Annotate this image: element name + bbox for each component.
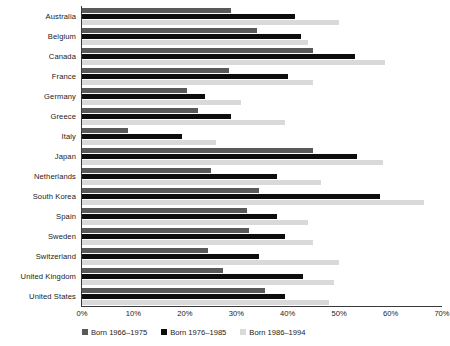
bar xyxy=(82,240,313,245)
legend-item[interactable]: Born 1976–1985 xyxy=(161,328,226,337)
bar xyxy=(82,300,329,305)
bar xyxy=(82,200,424,205)
legend-label: Born 1976–1985 xyxy=(170,328,226,337)
chart-legend: Born 1966–1975Born 1976–1985Born 1986–19… xyxy=(82,324,442,340)
category-label: Sweden xyxy=(0,226,76,246)
bar-group xyxy=(82,86,442,106)
category-label: Germany xyxy=(0,86,76,106)
bar xyxy=(82,60,385,65)
bar-group xyxy=(82,286,442,306)
x-tick-label: 70% xyxy=(434,309,449,318)
bar-group xyxy=(82,206,442,226)
category-label: Canada xyxy=(0,46,76,66)
category-axis-labels: AustraliaBelgiumCanadaFranceGermanyGreec… xyxy=(0,6,76,306)
bar xyxy=(82,234,285,239)
category-label: Belgium xyxy=(0,26,76,46)
bar xyxy=(82,208,247,213)
bar xyxy=(82,68,229,73)
bar-group xyxy=(82,166,442,186)
x-axis-tick-labels: 0%10%20%30%40%50%60%70% xyxy=(82,309,442,323)
bar-group xyxy=(82,126,442,146)
bar xyxy=(82,140,216,145)
x-axis-line xyxy=(81,306,442,307)
bar-group xyxy=(82,226,442,246)
bar xyxy=(82,94,205,99)
legend-swatch-icon xyxy=(240,329,246,335)
bar xyxy=(82,174,277,179)
bar-group xyxy=(82,46,442,66)
bar xyxy=(82,128,128,133)
bar xyxy=(82,180,321,185)
bar xyxy=(82,274,303,279)
bar xyxy=(82,54,355,59)
bar xyxy=(82,260,339,265)
bar xyxy=(82,160,383,165)
bar-groups xyxy=(82,6,442,306)
plot-area xyxy=(82,6,442,306)
bar xyxy=(82,214,277,219)
bar-group xyxy=(82,66,442,86)
bar xyxy=(82,148,313,153)
x-tick-label: 40% xyxy=(280,309,295,318)
x-tick-label: 60% xyxy=(383,309,398,318)
legend-item[interactable]: Born 1966–1975 xyxy=(82,328,147,337)
category-label: Japan xyxy=(0,146,76,166)
legend-item[interactable]: Born 1986–1994 xyxy=(240,328,305,337)
category-label: Spain xyxy=(0,206,76,226)
x-tick-label: 50% xyxy=(332,309,347,318)
bar xyxy=(82,74,288,79)
x-tick-label: 0% xyxy=(77,309,88,318)
category-label: United States xyxy=(0,286,76,306)
bar xyxy=(82,134,182,139)
bar-group xyxy=(82,246,442,266)
bar xyxy=(82,188,259,193)
category-label: France xyxy=(0,66,76,86)
bar xyxy=(82,120,285,125)
bar xyxy=(82,154,357,159)
category-label: Switzerland xyxy=(0,246,76,266)
category-label: United Kingdom xyxy=(0,266,76,286)
bar-group xyxy=(82,106,442,126)
bar xyxy=(82,220,308,225)
bar xyxy=(82,20,339,25)
bar-group xyxy=(82,186,442,206)
legend-label: Born 1966–1975 xyxy=(91,328,147,337)
bar xyxy=(82,228,249,233)
bar xyxy=(82,280,334,285)
category-label: Australia xyxy=(0,6,76,26)
category-label: Italy xyxy=(0,126,76,146)
legend-swatch-icon xyxy=(161,329,167,335)
bar-group xyxy=(82,146,442,166)
bar xyxy=(82,100,241,105)
x-tick-label: 10% xyxy=(126,309,141,318)
bar xyxy=(82,268,223,273)
bar xyxy=(82,8,231,13)
bar-group xyxy=(82,26,442,46)
bar xyxy=(82,294,285,299)
bar xyxy=(82,288,265,293)
bar-group xyxy=(82,266,442,286)
bar xyxy=(82,48,313,53)
bar xyxy=(82,40,308,45)
bar xyxy=(82,254,259,259)
category-label: Netherlands xyxy=(0,166,76,186)
bar xyxy=(82,88,187,93)
bar xyxy=(82,34,301,39)
bar xyxy=(82,194,380,199)
legend-swatch-icon xyxy=(82,329,88,335)
bar xyxy=(82,28,257,33)
category-label: Greece xyxy=(0,106,76,126)
x-tick-label: 20% xyxy=(177,309,192,318)
bar xyxy=(82,80,313,85)
bar xyxy=(82,114,231,119)
bar xyxy=(82,108,198,113)
bar xyxy=(82,14,295,19)
bar xyxy=(82,248,208,253)
bar-group xyxy=(82,6,442,26)
category-label: South Korea xyxy=(0,186,76,206)
x-tick-label: 30% xyxy=(229,309,244,318)
bar xyxy=(82,168,211,173)
legend-label: Born 1986–1994 xyxy=(249,328,305,337)
